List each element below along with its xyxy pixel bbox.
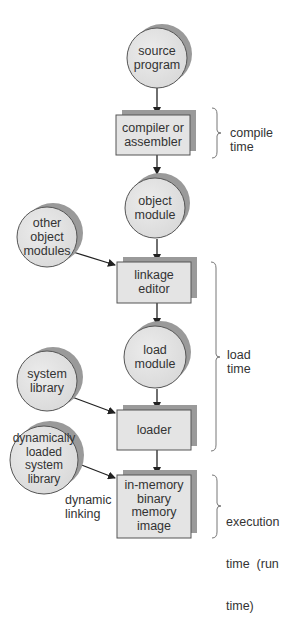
label-line: memory (117, 506, 191, 520)
label-line: binary (117, 493, 191, 507)
phase-compile-time-label: compile time (230, 126, 273, 154)
bracket-load-time (211, 262, 220, 451)
label-line: time (227, 362, 251, 376)
label-line: load (227, 348, 251, 362)
node-in-memory-label: in-memory binary memory image (117, 479, 191, 533)
label-line: system (4, 459, 84, 473)
label-line: image (117, 520, 191, 534)
label-line: object (125, 194, 185, 208)
label-line: time (230, 140, 273, 154)
brackets (211, 108, 221, 538)
label-line: assembler (116, 135, 190, 149)
label-line: compile (230, 126, 273, 140)
label-line: editor (117, 282, 191, 296)
label-line: loader (117, 423, 191, 437)
label-line: time) (226, 599, 280, 613)
label-line: modules (17, 244, 77, 258)
edge-dynlib-to-memory (79, 464, 115, 478)
phase-load-time-label: load time (227, 348, 251, 376)
label-line: library (4, 473, 84, 487)
label-line: linkage (117, 268, 191, 282)
label-line: dynamic (65, 493, 112, 507)
label-line: loaded (4, 446, 84, 460)
label-line: execution (226, 515, 280, 529)
label-line: system (17, 367, 77, 381)
node-object-module-label: object module (125, 194, 185, 222)
label-line: linking (65, 507, 112, 521)
edge-syslib-to-loader (72, 397, 115, 413)
label-line: source (127, 44, 187, 58)
label-line: time (run (226, 557, 280, 571)
node-system-library-label: system library (17, 367, 77, 395)
label-line: module (125, 208, 185, 222)
label-line: program (127, 58, 187, 72)
label-line: dynamically (4, 432, 84, 446)
label-line: compiler or (116, 121, 190, 135)
label-line: library (17, 381, 77, 395)
node-linkage-editor-label: linkage editor (117, 268, 191, 296)
bracket-execution-time (212, 475, 221, 538)
label-line: object (17, 230, 77, 244)
bracket-compile-time (212, 108, 221, 158)
label-line: module (125, 357, 185, 371)
edge-other-to-linkage (73, 252, 115, 265)
node-dynamic-library-label: dynamically loaded system library (4, 432, 84, 486)
node-other-object-modules-label: other object modules (17, 216, 77, 258)
label-line: load (125, 343, 185, 357)
phase-execution-time-label: execution time (run time) (226, 487, 280, 617)
node-load-module-label: load module (125, 343, 185, 371)
edge-label-dynamic-linking: dynamic linking (65, 493, 112, 521)
node-compiler-label: compiler or assembler (116, 121, 190, 149)
label-line: in-memory (117, 479, 191, 493)
label-line: other (17, 216, 77, 230)
node-source-program-label: source program (127, 44, 187, 72)
node-loader-label: loader (117, 423, 191, 437)
